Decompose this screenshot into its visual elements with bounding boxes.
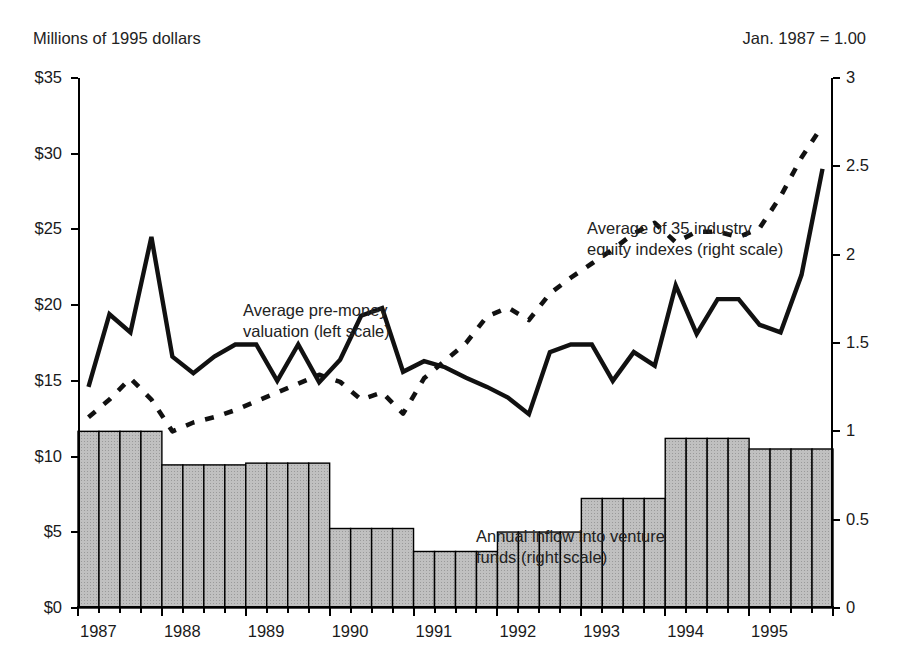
left-tick xyxy=(71,228,78,230)
x-tick-label: 1988 xyxy=(164,622,201,641)
left-tick-label: $25 xyxy=(0,220,62,237)
x-tick-label: 1994 xyxy=(667,622,704,641)
right-tick-label: 1.5 xyxy=(846,334,869,351)
x-tick-minor xyxy=(392,606,394,613)
x-tick-minor xyxy=(559,606,561,613)
x-tick-major xyxy=(329,606,331,616)
annotation-equity-line1: Average of 35 industry xyxy=(587,219,752,237)
x-tick-label: 1991 xyxy=(416,622,453,641)
x-tick-major xyxy=(161,606,163,616)
x-tick-major xyxy=(77,606,79,616)
left-tick-label: $5 xyxy=(0,523,62,540)
x-tick-minor xyxy=(643,606,645,613)
annotation-valuation: Average pre-money valuation (left scale) xyxy=(243,300,390,342)
annotation-venture-inflow: Annual inflow into venture funds (right … xyxy=(476,526,665,568)
x-tick-major xyxy=(664,606,666,616)
x-tick-minor xyxy=(517,606,519,613)
x-tick-label: 1987 xyxy=(80,622,117,641)
right-tick-label: 0 xyxy=(846,599,855,616)
x-tick-minor xyxy=(266,606,268,613)
right-tick xyxy=(833,254,840,256)
line-equity-indexes xyxy=(88,126,822,432)
x-tick-minor xyxy=(455,606,457,613)
left-tick xyxy=(71,304,78,306)
left-tick-label: $15 xyxy=(0,372,62,389)
lines-layer xyxy=(78,78,833,608)
right-tick xyxy=(833,77,840,79)
right-tick-label: 2 xyxy=(846,246,855,263)
right-tick xyxy=(833,519,840,521)
right-tick-label: 2.5 xyxy=(846,157,869,174)
x-tick-minor xyxy=(475,606,477,613)
x-tick-major xyxy=(413,606,415,616)
x-tick-label: 1993 xyxy=(583,622,620,641)
x-tick-minor xyxy=(119,606,121,613)
x-tick-minor xyxy=(622,606,624,613)
annotation-inflow-line2: funds (right scale) xyxy=(476,548,607,566)
left-tick-label: $0 xyxy=(0,599,62,616)
left-tick xyxy=(71,531,78,533)
x-tick-minor xyxy=(601,606,603,613)
right-tick-label: 3 xyxy=(846,69,855,86)
x-tick-minor xyxy=(790,606,792,613)
x-tick-major xyxy=(245,606,247,616)
right-axis-units-label: Jan. 1987 = 1.00 xyxy=(743,29,866,48)
venture-capital-chart: Millions of 1995 dollars Jan. 1987 = 1.0… xyxy=(0,0,899,662)
x-tick-minor xyxy=(706,606,708,613)
right-tick-label: 0.5 xyxy=(846,511,869,528)
left-tick-label: $10 xyxy=(0,448,62,465)
annotation-valuation-line2: valuation (left scale) xyxy=(243,322,390,340)
x-tick-minor xyxy=(371,606,373,613)
x-tick-minor xyxy=(224,606,226,613)
x-tick-minor xyxy=(538,606,540,613)
x-tick-label: 1992 xyxy=(499,622,536,641)
x-tick-minor xyxy=(434,606,436,613)
x-tick-major xyxy=(832,606,834,616)
x-tick-minor xyxy=(98,606,100,613)
left-tick-label: $30 xyxy=(0,145,62,162)
x-tick-minor xyxy=(769,606,771,613)
x-tick-major xyxy=(496,606,498,616)
x-tick-label: 1989 xyxy=(248,622,285,641)
annotation-equity-indexes: Average of 35 industry equity indexes (r… xyxy=(587,218,783,260)
annotation-equity-line2: equity indexes (right scale) xyxy=(587,240,783,258)
x-tick-minor xyxy=(685,606,687,613)
left-tick-label: $20 xyxy=(0,296,62,313)
right-tick xyxy=(833,607,840,609)
x-tick-minor xyxy=(287,606,289,613)
x-tick-minor xyxy=(182,606,184,613)
left-tick xyxy=(71,456,78,458)
x-tick-minor xyxy=(727,606,729,613)
left-tick xyxy=(71,380,78,382)
right-tick-label: 1 xyxy=(846,422,855,439)
x-tick-minor xyxy=(350,606,352,613)
right-tick xyxy=(833,342,840,344)
annotation-inflow-line1: Annual inflow into venture xyxy=(476,527,665,545)
x-tick-minor xyxy=(140,606,142,613)
x-tick-major xyxy=(748,606,750,616)
x-tick-minor xyxy=(308,606,310,613)
right-tick xyxy=(833,165,840,167)
x-tick-label: 1995 xyxy=(751,622,788,641)
x-tick-label: 1990 xyxy=(332,622,369,641)
line-pre-money-valuation xyxy=(88,169,822,414)
x-tick-minor xyxy=(811,606,813,613)
plot-area: $0$5$10$15$20$25$30$35 00.511.522.53 198… xyxy=(78,78,833,608)
left-axis-units-label: Millions of 1995 dollars xyxy=(33,29,201,48)
left-tick-label: $35 xyxy=(0,69,62,86)
left-tick xyxy=(71,77,78,79)
x-tick-minor xyxy=(203,606,205,613)
left-axis-line xyxy=(78,78,80,608)
annotation-valuation-line1: Average pre-money xyxy=(243,301,388,319)
left-tick xyxy=(71,153,78,155)
right-tick xyxy=(833,430,840,432)
x-tick-major xyxy=(580,606,582,616)
